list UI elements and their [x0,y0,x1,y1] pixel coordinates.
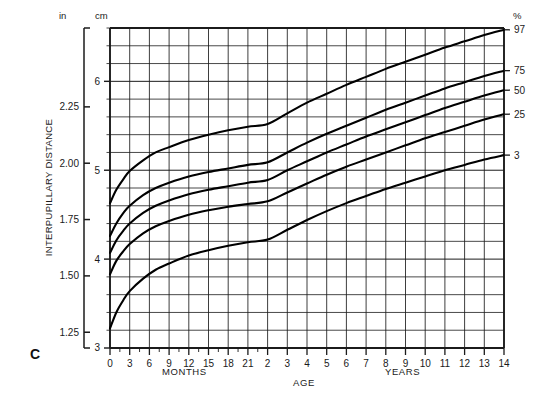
cm-tick-label: 6 [94,76,100,87]
percentile-label-25: 25 [514,109,526,120]
x-axis-title: AGE [293,378,315,388]
unit-label-inches: in [59,11,66,21]
percentile-label-97: 97 [514,24,526,35]
percentile-label-3: 3 [514,150,520,161]
x-tick-label: 14 [498,358,510,369]
cm-tick-label: 4 [94,254,100,265]
inches-tick-label: 1.25 [60,327,80,338]
percentile-label-50: 50 [514,85,526,96]
inches-tick-label: 2.00 [60,158,80,169]
interpupillary-distance-chart: 34561.251.501.752.002.259775502530369121… [0,0,553,399]
cm-tick-label: 3 [94,342,100,353]
x-tick-label: 3 [285,358,291,369]
x-tick-label: 13 [479,358,491,369]
percentile-axis: 977550253 [504,24,526,160]
x-group-label-years: YEARS [385,367,420,377]
inches-tick-label: 1.50 [60,270,80,281]
x-tick-label: 2 [265,358,271,369]
x-group-label-months: MONTHS [162,367,207,377]
percentile-label-75: 75 [514,65,526,76]
x-tick-label: 18 [223,358,235,369]
x-tick-label: 12 [459,358,471,369]
chart-gridlines [110,28,504,348]
panel-letter: C [30,346,40,362]
x-tick-label: 6 [344,358,350,369]
cm-axis: 3456 [94,28,110,353]
y-axis-title: INTERPUPILLARY DISTANCE [43,93,54,283]
unit-label-centimeters: cm [95,11,108,21]
x-tick-label: 3 [127,358,133,369]
x-tick-label: 0 [107,358,113,369]
growth-chart-figure: 34561.251.501.752.002.259775502530369121… [0,0,553,399]
cm-tick-label: 5 [94,165,100,176]
x-tick-label: 21 [242,358,254,369]
inches-tick-label: 1.75 [60,214,80,225]
x-tick-label: 6 [147,358,153,369]
x-tick-label: 4 [304,358,310,369]
x-tick-label: 11 [440,358,451,369]
x-tick-label: 7 [363,358,369,369]
inches-tick-label: 2.25 [60,101,80,112]
inches-axis: 1.251.501.752.002.25 [60,28,90,348]
x-tick-label: 5 [324,358,330,369]
unit-label-percent: % [513,11,521,21]
x-tick-label: 10 [420,358,432,369]
